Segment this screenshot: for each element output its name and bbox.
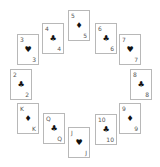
card-3-hearts[interactable]: 3 ♥ 3 <box>17 34 39 65</box>
card-rank-top: J <box>71 129 73 136</box>
club-icon: ♣ <box>43 34 63 43</box>
card-rank-bottom: 8 <box>145 91 149 98</box>
card-rank-top: 2 <box>13 71 17 78</box>
card-q-clubs[interactable]: Q ♣ Q <box>43 113 65 144</box>
club-icon: ♣ <box>96 125 116 134</box>
diamond-icon: ♦ <box>120 114 140 123</box>
card-rank-top: 3 <box>20 36 24 43</box>
card-rank-top: K <box>20 105 24 112</box>
card-rank-bottom: Q <box>57 135 62 142</box>
card-4-clubs[interactable]: 4 ♣ 4 <box>42 23 64 54</box>
club-icon: ♣ <box>96 34 116 43</box>
card-rank-bottom: 6 <box>110 45 114 52</box>
club-icon: ♣ <box>131 80 151 89</box>
card-2-clubs[interactable]: 2 ♣ 2 <box>10 69 32 100</box>
card-rank-bottom: 7 <box>134 56 138 63</box>
heart-icon: ♥ <box>120 45 140 54</box>
club-icon: ♣ <box>44 124 64 133</box>
diamond-icon: ♦ <box>69 21 89 30</box>
card-5-diamonds[interactable]: 5 ♦ 5 <box>68 10 90 41</box>
card-j-hearts[interactable]: J ♥ J <box>68 127 90 158</box>
card-rank-bottom: 5 <box>83 32 87 39</box>
heart-icon: ♥ <box>69 138 89 147</box>
card-rank-bottom: 2 <box>25 91 29 98</box>
card-rank-bottom: 4 <box>57 45 61 52</box>
card-rank-top: Q <box>46 115 51 122</box>
card-rank-bottom: 10 <box>106 136 114 143</box>
card-6-clubs[interactable]: 6 ♣ 6 <box>95 23 117 54</box>
card-7-hearts[interactable]: 7 ♥ 7 <box>119 34 141 65</box>
heart-icon: ♥ <box>18 45 38 54</box>
card-8-clubs[interactable]: 8 ♣ 8 <box>130 69 152 100</box>
card-rank-top: 10 <box>98 116 106 123</box>
card-rank-bottom: J <box>85 149 87 156</box>
card-rank-top: 7 <box>122 36 126 43</box>
diamond-icon: ♦ <box>18 114 38 123</box>
card-10-clubs[interactable]: 10 ♣ 10 <box>95 114 117 145</box>
card-rank-top: 8 <box>133 71 137 78</box>
card-rank-top: 5 <box>71 12 75 19</box>
card-rank-top: 6 <box>98 25 102 32</box>
club-icon: ♣ <box>11 80 31 89</box>
card-rank-bottom: 9 <box>134 125 138 132</box>
card-rank-top: 4 <box>45 25 49 32</box>
card-9-diamonds[interactable]: 9 ♦ 9 <box>119 103 141 134</box>
card-rank-top: 9 <box>122 105 126 112</box>
card-k-diamonds[interactable]: K ♦ K <box>17 103 39 134</box>
card-rank-bottom: K <box>32 125 36 132</box>
card-rank-bottom: 3 <box>32 56 36 63</box>
